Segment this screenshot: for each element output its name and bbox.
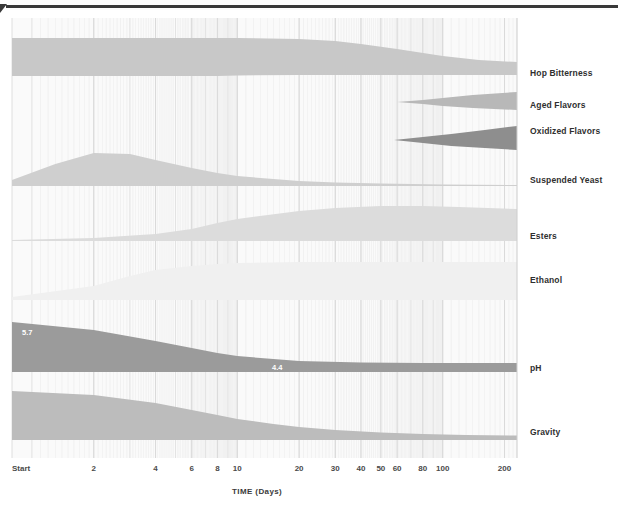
x-tick-label: 100	[436, 465, 449, 473]
series-label-esters: Esters	[530, 232, 557, 241]
series-label-oxidized-flavors: Oxidized Flavors	[530, 127, 600, 136]
series-label-aged-flavors: Aged Flavors	[530, 101, 586, 110]
series-label-ph: pH	[530, 364, 542, 373]
x-axis-title: TIME (Days)	[232, 488, 282, 496]
x-tick-label: 20	[295, 465, 304, 473]
x-tick-label: 50	[376, 465, 385, 473]
x-tick-label: 6	[190, 465, 194, 473]
x-tick-label: 40	[357, 465, 366, 473]
x-tick-label: 200	[498, 465, 511, 473]
x-tick-label: 4	[153, 465, 157, 473]
x-tick-label: 2	[92, 465, 96, 473]
x-tick-label: 80	[418, 465, 427, 473]
x-tick-label: Start	[12, 465, 30, 473]
x-tick-label: 8	[215, 465, 219, 473]
series-label-ethanol: Ethanol	[530, 276, 562, 285]
series-label-suspended-yeast: Suspended Yeast	[530, 176, 602, 185]
x-tick-label: 10	[233, 465, 242, 473]
chart-root: Hop BitternessAged FlavorsOxidized Flavo…	[0, 0, 618, 509]
band-value-label: 4.4	[272, 364, 282, 372]
series-label-gravity: Gravity	[530, 428, 560, 437]
x-tick-label: 30	[331, 465, 340, 473]
beer-maturation-area-chart	[0, 0, 618, 509]
x-tick-label: 60	[393, 465, 402, 473]
series-label-hop-bitterness: Hop Bitterness	[530, 69, 593, 78]
band-value-label: 5.7	[22, 329, 32, 337]
